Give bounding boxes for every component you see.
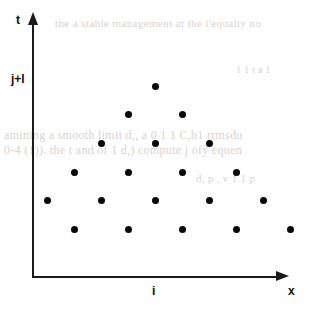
lattice-point [233,226,240,233]
lattice-point [125,169,132,176]
lattice-point [71,169,78,176]
y-axis-line [32,22,34,278]
y-axis-arrow-icon [28,12,38,25]
bleed-through-text-line-1: the a stable management at the l'equalty… [55,17,261,29]
lattice-point [125,226,132,233]
lattice-point [206,197,213,204]
y-axis-tick-label: j+l [11,73,25,85]
lattice-point [260,197,267,204]
lattice-point [179,111,186,118]
lattice-point [98,197,105,204]
lattice-point [152,140,159,147]
lattice-diagram-figure: the a stable management at the l'equalty… [0,0,313,316]
lattice-point [287,226,294,233]
lattice-point [152,83,159,90]
lattice-point [206,140,213,147]
lattice-point [179,169,186,176]
lattice-point [71,226,78,233]
bleed-through-text-line-5: 1 1 t a 1 [236,64,271,75]
y-axis-label: t [16,14,20,26]
x-axis-tick-label: i [152,285,155,297]
lattice-point [125,111,132,118]
lattice-point [179,226,186,233]
x-axis-arrow-icon [276,271,289,281]
lattice-point [152,197,159,204]
bleed-through-text-line-4: d, p , v 1 1 p [196,172,255,184]
lattice-point [233,169,240,176]
x-axis-label: x [288,285,295,297]
lattice-point [44,197,51,204]
lattice-point [98,140,105,147]
x-axis-line [32,276,280,278]
